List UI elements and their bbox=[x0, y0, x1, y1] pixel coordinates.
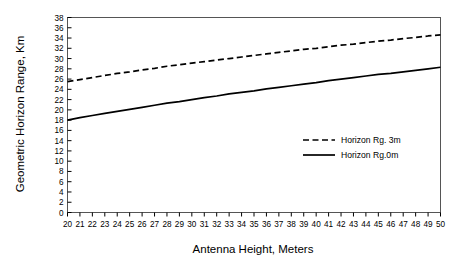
x-tick-label: 44 bbox=[361, 220, 371, 229]
x-tick-label: 25 bbox=[125, 220, 135, 229]
y-tick-label: 38 bbox=[54, 14, 64, 23]
y-tick-label: 34 bbox=[54, 34, 64, 43]
plot-frame bbox=[68, 18, 441, 213]
x-tick-label: 35 bbox=[249, 220, 259, 229]
y-tick-label: 10 bbox=[54, 157, 64, 166]
x-tick-label: 21 bbox=[75, 220, 85, 229]
y-tick-label: 36 bbox=[54, 24, 64, 33]
x-tick-label: 49 bbox=[424, 220, 434, 229]
y-tick-label: 16 bbox=[54, 126, 64, 135]
x-tick-label: 32 bbox=[212, 220, 222, 229]
y-tick-label: 32 bbox=[54, 44, 64, 53]
x-axis-ticks bbox=[68, 213, 441, 217]
y-axis-tick-labels: 02468101214161820222426283032343638 bbox=[54, 14, 64, 218]
data-series-layer bbox=[68, 35, 441, 120]
y-tick-label: 0 bbox=[59, 209, 64, 218]
x-tick-label: 50 bbox=[436, 220, 446, 229]
legend-label: Horizon Rg.0m bbox=[341, 150, 398, 160]
y-tick-label: 24 bbox=[54, 85, 64, 94]
x-tick-label: 36 bbox=[262, 220, 272, 229]
x-tick-label: 27 bbox=[150, 220, 160, 229]
y-tick-label: 26 bbox=[54, 75, 64, 84]
x-tick-label: 40 bbox=[312, 220, 322, 229]
x-axis-title: Antenna Height, Meters bbox=[193, 243, 314, 255]
x-tick-label: 30 bbox=[187, 220, 197, 229]
x-tick-label: 22 bbox=[88, 220, 98, 229]
y-tick-label: 6 bbox=[59, 178, 64, 187]
y-axis-ticks bbox=[68, 18, 72, 213]
x-tick-label: 38 bbox=[287, 220, 297, 229]
y-axis-title: Geometric Horizon Range, Km bbox=[14, 36, 26, 193]
x-tick-label: 43 bbox=[349, 220, 359, 229]
x-tick-label: 31 bbox=[200, 220, 210, 229]
series-line bbox=[68, 67, 441, 120]
y-tick-label: 14 bbox=[54, 137, 64, 146]
x-tick-label: 45 bbox=[374, 220, 384, 229]
legend-label: Horizon Rg. 3m bbox=[341, 135, 401, 145]
x-tick-label: 29 bbox=[175, 220, 185, 229]
y-tick-label: 22 bbox=[54, 96, 64, 105]
x-tick-label: 46 bbox=[386, 220, 396, 229]
y-tick-label: 30 bbox=[54, 55, 64, 64]
y-tick-label: 2 bbox=[59, 198, 64, 207]
x-tick-label: 28 bbox=[162, 220, 172, 229]
x-tick-label: 20 bbox=[63, 220, 73, 229]
x-tick-label: 33 bbox=[225, 220, 235, 229]
y-tick-label: 28 bbox=[54, 65, 64, 74]
chart-legend: Horizon Rg. 3mHorizon Rg.0m bbox=[303, 135, 401, 160]
y-tick-label: 4 bbox=[59, 188, 64, 197]
x-tick-label: 26 bbox=[138, 220, 148, 229]
x-tick-label: 24 bbox=[113, 220, 123, 229]
y-tick-label: 20 bbox=[54, 106, 64, 115]
y-tick-label: 18 bbox=[54, 116, 64, 125]
x-axis-tick-labels: 2021222324252627282930313233343536373839… bbox=[63, 220, 446, 229]
y-tick-label: 12 bbox=[54, 147, 64, 156]
y-tick-label: 8 bbox=[59, 167, 64, 176]
x-tick-label: 34 bbox=[237, 220, 247, 229]
x-tick-label: 47 bbox=[399, 220, 409, 229]
x-tick-label: 37 bbox=[274, 220, 284, 229]
x-tick-label: 23 bbox=[100, 220, 110, 229]
x-tick-label: 39 bbox=[299, 220, 309, 229]
x-tick-label: 48 bbox=[411, 220, 421, 229]
chart-figure: 02468101214161820222426283032343638 2021… bbox=[0, 0, 465, 259]
x-tick-label: 41 bbox=[324, 220, 334, 229]
geometric-horizon-range-chart: 02468101214161820222426283032343638 2021… bbox=[0, 0, 465, 259]
x-tick-label: 42 bbox=[336, 220, 346, 229]
